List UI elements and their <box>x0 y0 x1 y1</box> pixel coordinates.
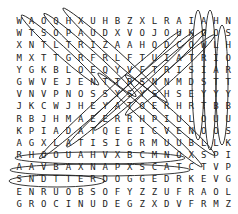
letter-cell[interactable]: S <box>173 88 185 100</box>
letter-cell[interactable]: D <box>38 173 50 185</box>
letter-cell[interactable]: C <box>38 100 50 112</box>
letter-cell[interactable]: I <box>161 113 173 125</box>
letter-cell[interactable]: G <box>25 64 37 76</box>
letter-cell[interactable]: G <box>124 137 136 149</box>
letter-cell[interactable]: Y <box>13 64 25 76</box>
letter-cell[interactable]: A <box>62 137 74 149</box>
letter-cell[interactable]: A <box>13 161 25 173</box>
letter-cell[interactable]: R <box>99 52 111 64</box>
letter-cell[interactable]: E <box>13 186 25 198</box>
letter-cell[interactable]: E <box>74 173 86 185</box>
letter-cell[interactable]: T <box>111 76 123 88</box>
letter-cell[interactable]: D <box>161 173 173 185</box>
letter-cell[interactable]: I <box>161 52 173 64</box>
letter-cell[interactable]: J <box>13 100 25 112</box>
letter-cell[interactable]: F <box>185 198 197 210</box>
letter-cell[interactable]: R <box>74 39 86 51</box>
letter-cell[interactable]: C <box>173 39 185 51</box>
letter-cell[interactable]: L <box>210 137 222 149</box>
letter-cell[interactable]: S <box>87 186 99 198</box>
letter-cell[interactable]: V <box>38 161 50 173</box>
letter-cell[interactable]: W <box>13 27 25 39</box>
letter-cell[interactable]: T <box>210 76 222 88</box>
letter-cell[interactable]: U <box>87 27 99 39</box>
letter-cell[interactable]: E <box>87 100 99 112</box>
letter-cell[interactable]: U <box>62 149 74 161</box>
letter-cell[interactable]: W <box>197 39 209 51</box>
letter-cell[interactable]: J <box>148 27 160 39</box>
letter-cell[interactable]: B <box>210 100 222 112</box>
letter-cell[interactable]: S <box>136 161 148 173</box>
letter-cell[interactable]: U <box>173 137 185 149</box>
letter-cell[interactable]: L <box>185 113 197 125</box>
letter-cell[interactable]: L <box>50 39 62 51</box>
letter-cell[interactable]: Z <box>124 15 136 27</box>
letter-cell[interactable]: Q <box>99 64 111 76</box>
letter-cell[interactable]: S <box>13 173 25 185</box>
letter-cell[interactable]: X <box>111 149 123 161</box>
letter-cell[interactable]: O <box>136 27 148 39</box>
letter-cell[interactable]: N <box>161 149 173 161</box>
letter-cell[interactable]: R <box>74 52 86 64</box>
letter-cell[interactable]: X <box>111 27 123 39</box>
letter-cell[interactable]: O <box>50 27 62 39</box>
letter-cell[interactable]: Z <box>148 186 160 198</box>
letter-cell[interactable]: E <box>111 198 123 210</box>
letter-cell[interactable]: H <box>136 39 148 51</box>
letter-cell[interactable]: O <box>197 125 209 137</box>
letter-cell[interactable]: A <box>111 39 123 51</box>
letter-cell[interactable]: G <box>124 198 136 210</box>
letter-cell[interactable]: T <box>62 173 74 185</box>
letter-cell[interactable]: A <box>111 100 123 112</box>
letter-cell[interactable]: K <box>13 125 25 137</box>
letter-cell[interactable]: P <box>222 161 234 173</box>
letter-cell[interactable]: M <box>13 52 25 64</box>
letter-cell[interactable]: C <box>148 125 160 137</box>
letter-cell[interactable]: E <box>111 125 123 137</box>
letter-cell[interactable]: L <box>111 52 123 64</box>
letter-cell[interactable]: N <box>25 173 37 185</box>
letter-cell[interactable]: S <box>197 149 209 161</box>
letter-cell[interactable]: X <box>185 149 197 161</box>
letter-cell[interactable]: O <box>111 173 123 185</box>
letter-cell[interactable]: L <box>50 137 62 149</box>
letter-cell[interactable]: P <box>62 27 74 39</box>
letter-cell[interactable]: A <box>25 15 37 27</box>
letter-cell[interactable]: O <box>50 149 62 161</box>
letter-cell[interactable]: E <box>50 76 62 88</box>
letter-cell[interactable]: M <box>173 76 185 88</box>
letter-cell[interactable]: G <box>62 52 74 64</box>
letter-cell[interactable]: U <box>161 186 173 198</box>
letter-cell[interactable]: A <box>74 125 86 137</box>
letter-cell[interactable]: I <box>87 137 99 149</box>
letter-cell[interactable]: N <box>87 161 99 173</box>
letter-cell[interactable]: O <box>222 52 234 64</box>
letter-cell[interactable]: X <box>25 52 37 64</box>
letter-cell[interactable]: Y <box>222 88 234 100</box>
letter-cell[interactable]: P <box>210 149 222 161</box>
letter-cell[interactable]: Y <box>99 100 111 112</box>
letter-cell[interactable]: O <box>161 27 173 39</box>
letter-cell[interactable]: D <box>99 198 111 210</box>
letter-cell[interactable]: N <box>161 76 173 88</box>
letter-cell[interactable]: O <box>210 27 222 39</box>
letter-cell[interactable]: A <box>173 52 185 64</box>
letter-cell[interactable]: F <box>111 186 123 198</box>
letter-cell[interactable]: E <box>99 113 111 125</box>
letter-cell[interactable]: Y <box>210 88 222 100</box>
letter-cell[interactable]: D <box>62 125 74 137</box>
letter-cell[interactable]: A <box>13 137 25 149</box>
letter-cell[interactable]: R <box>197 52 209 64</box>
letter-cell[interactable]: T <box>99 76 111 88</box>
letter-cell[interactable]: F <box>136 64 148 76</box>
letter-cell[interactable]: R <box>25 198 37 210</box>
letter-cell[interactable]: I <box>38 125 50 137</box>
letter-cell[interactable]: C <box>185 161 197 173</box>
letter-cell[interactable]: X <box>38 137 50 149</box>
letter-cell[interactable]: A <box>99 161 111 173</box>
letter-cell[interactable]: R <box>173 173 185 185</box>
letter-cell[interactable]: R <box>197 198 209 210</box>
letter-cell[interactable]: T <box>74 137 86 149</box>
letter-cell[interactable]: U <box>87 198 99 210</box>
letter-cell[interactable]: R <box>13 113 25 125</box>
